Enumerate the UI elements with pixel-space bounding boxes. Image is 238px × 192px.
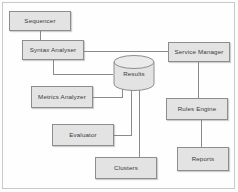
node-sequencer[interactable]: Sequencer: [9, 11, 71, 31]
node-evaluator-label: Evaluator: [67, 132, 99, 139]
node-syntax-analyser-label: Syntax Analyser: [28, 47, 79, 54]
node-service-manager-label: Service Manager: [172, 49, 225, 56]
node-results-datastore[interactable]: Results: [113, 55, 155, 91]
node-sequencer-label: Sequencer: [22, 18, 57, 25]
node-metrics-analyzer-label: Metrics Analyzer: [36, 94, 88, 101]
diagram-canvas: Sequencer Syntax Analyser Service Manage…: [0, 0, 238, 192]
node-rules-engine[interactable]: Rules Engine: [166, 98, 228, 120]
node-reports-label: Reports: [190, 156, 217, 163]
node-reports[interactable]: Reports: [177, 147, 229, 171]
node-syntax-analyser[interactable]: Syntax Analyser: [22, 40, 84, 60]
cylinder-shape: [113, 55, 155, 91]
node-clusters[interactable]: Clusters: [95, 157, 157, 179]
node-clusters-label: Clusters: [112, 165, 140, 172]
node-evaluator[interactable]: Evaluator: [52, 124, 114, 146]
node-metrics-analyzer[interactable]: Metrics Analyzer: [31, 86, 93, 108]
node-rules-engine-label: Rules Engine: [176, 106, 219, 113]
node-service-manager[interactable]: Service Manager: [168, 42, 230, 62]
connector-syntax-to-results: [53, 60, 113, 74]
